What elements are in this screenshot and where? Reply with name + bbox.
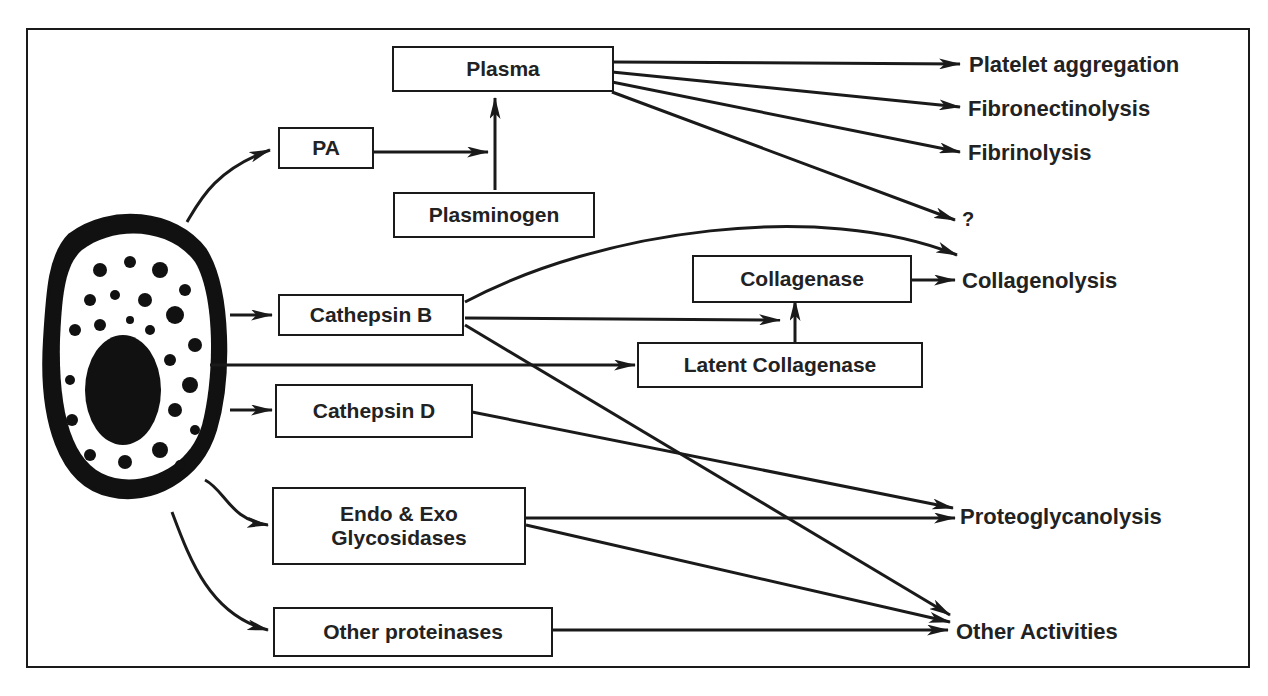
collagenase-box: Collagenase	[692, 255, 912, 303]
cathepsin-d-box: Cathepsin D	[275, 384, 473, 438]
cathepsin-b-box: Cathepsin B	[278, 294, 464, 336]
latent-collagenase-box: Latent Collagenase	[637, 342, 923, 388]
cathepsin-d-label: Cathepsin D	[313, 399, 436, 423]
plasminogen-box: Plasminogen	[393, 192, 595, 238]
glycosidases-label-line2: Glycosidases	[331, 526, 466, 550]
outcome-collagenolysis: Collagenolysis	[962, 268, 1117, 294]
other-proteinases-label: Other proteinases	[323, 620, 503, 644]
collagenase-label: Collagenase	[740, 267, 864, 291]
latent-collagenase-label: Latent Collagenase	[684, 353, 877, 377]
plasminogen-label: Plasminogen	[429, 203, 560, 227]
cathepsin-b-label: Cathepsin B	[310, 303, 433, 327]
outcome-proteoglycanolysis: Proteoglycanolysis	[960, 504, 1162, 530]
outcome-other-activities: Other Activities	[956, 619, 1118, 645]
other-proteinases-box: Other proteinases	[273, 607, 553, 657]
outcome-fibronectinolysis: Fibronectinolysis	[968, 96, 1150, 122]
outcome-fibrinolysis: Fibrinolysis	[968, 140, 1091, 166]
glycosidases-label-line1: Endo & Exo	[340, 502, 458, 526]
cell-icon	[44, 216, 225, 497]
outcome-unknown: ?	[962, 208, 974, 231]
glycosidases-box: Endo & Exo Glycosidases	[272, 487, 526, 565]
pa-box: PA	[278, 127, 374, 169]
plasma-label: Plasma	[466, 57, 540, 81]
outcome-platelet-aggregation: Platelet aggregation	[969, 52, 1179, 78]
plasma-box: Plasma	[392, 46, 614, 92]
pa-label: PA	[312, 136, 340, 160]
